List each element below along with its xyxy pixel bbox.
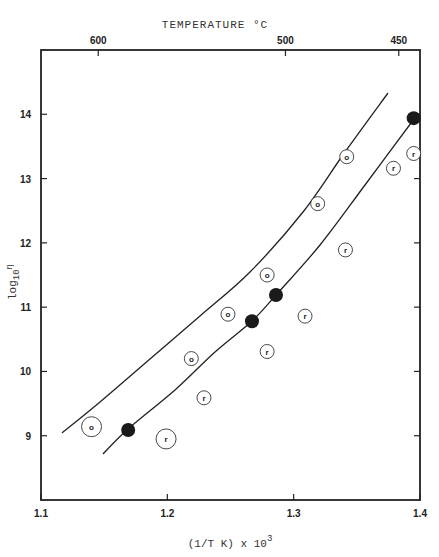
y-tick-label: 14 [20,109,32,120]
chart: TEMPERATURE °C 600500450 1.11.21.31.4 91… [0,0,439,557]
y-tick-label: 9 [25,431,31,442]
x-tick-label: 1.3 [287,508,301,519]
o-point-label: o [189,355,194,364]
x-axis-label: (1/T K) x 103 [188,534,273,550]
r-point-label: r [303,312,306,321]
x-tick-label: 1.1 [34,508,48,519]
y-tick-label: 12 [20,238,32,249]
x-tick-label: 1.4 [413,508,427,519]
data-points: oooooorrrrrrr [82,111,421,449]
top-axis-ticks: 600500450 [90,35,408,56]
upper-curve [62,93,388,433]
y-axis-label: log10η [5,264,22,300]
lower-curve [103,119,414,454]
o-point-label: o [315,200,320,209]
fit-curves [62,93,414,454]
o-point-label: o [344,153,349,162]
filled-point [407,111,421,125]
y-tick-label: 13 [20,174,32,185]
y-axis-ticks: 91011121314 [20,109,420,441]
filled-point [121,423,135,437]
r-point-label: r [344,246,347,255]
r-point-label: r [202,394,205,403]
x-tick-label: 1.2 [160,508,174,519]
r-point-label: r [412,150,415,159]
filled-point [245,314,259,328]
r-point-label: r [266,348,269,357]
top-tick-label: 500 [277,35,294,46]
y-tick-label: 10 [20,366,32,377]
y-tick-label: 11 [20,302,31,313]
o-point-label: o [226,310,231,319]
o-point-label: o [265,271,270,280]
top-tick-label: 450 [390,35,407,46]
top-axis-title: TEMPERATURE °C [162,19,268,31]
top-tick-label: 600 [90,35,107,46]
filled-point [269,288,283,302]
o-point-label: o [89,423,94,432]
r-point-label: r [392,164,395,173]
x-axis-ticks: 1.11.21.31.4 [34,494,427,519]
r-point-label: r [165,435,168,444]
